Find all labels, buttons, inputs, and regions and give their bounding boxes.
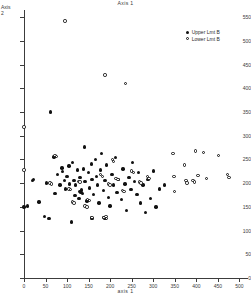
data-point: [72, 179, 75, 182]
data-point: [90, 216, 93, 219]
data-point: [67, 164, 70, 167]
data-point: [97, 201, 100, 204]
data-point: [137, 171, 140, 174]
data-point: [124, 82, 127, 85]
data-point: [144, 211, 147, 214]
data-point: [71, 161, 74, 164]
data-point: [120, 198, 123, 201]
data-point: [217, 154, 220, 157]
data-point: [53, 192, 56, 195]
data-point: [154, 205, 157, 208]
data-point: [37, 200, 40, 203]
y-tick-label: 50: [229, 251, 251, 257]
data-point: [202, 151, 205, 154]
x-tick: [24, 278, 25, 282]
y-tick: [20, 112, 24, 113]
data-point: [125, 209, 128, 212]
data-point: [102, 189, 105, 192]
data-point: [43, 215, 46, 218]
data-point: [47, 217, 50, 220]
data-point: [92, 193, 95, 196]
data-point: [205, 177, 208, 180]
data-point: [49, 110, 52, 113]
legend: Upper Lmt B Lower Lmt B: [186, 29, 220, 42]
x-tick-label: 0: [12, 283, 36, 289]
data-point: [70, 220, 73, 223]
data-point: [77, 197, 80, 200]
y-tick: [20, 17, 24, 18]
open-circle-icon: [186, 37, 189, 40]
data-point: [58, 183, 61, 186]
data-point: [83, 180, 86, 183]
data-point: [50, 182, 53, 185]
data-point: [185, 181, 188, 184]
data-point: [147, 177, 150, 180]
x-tick: [110, 278, 111, 282]
data-point: [131, 161, 134, 164]
data-point: [132, 171, 135, 174]
y-tick-label: 100: [229, 228, 251, 234]
x-tick-label: 200: [98, 283, 122, 289]
data-point: [22, 168, 25, 171]
y-axis-line: [24, 10, 25, 278]
y-tick: [20, 231, 24, 232]
data-point: [65, 175, 68, 178]
y-tick-label: 500: [229, 38, 251, 44]
x-tick-label: 50: [34, 283, 58, 289]
y-tick-label: 150: [229, 204, 251, 210]
y-tick-label: 550: [229, 14, 251, 20]
data-point: [63, 179, 66, 182]
data-point: [158, 187, 161, 190]
data-point: [74, 183, 77, 186]
data-point: [55, 155, 58, 158]
data-point: [56, 173, 59, 176]
x-tick-label: 250: [120, 283, 144, 289]
y-tick: [20, 159, 24, 160]
data-point: [103, 179, 106, 182]
x-tick-label: 350: [163, 283, 187, 289]
x-tick: [153, 278, 154, 282]
data-point: [108, 183, 111, 186]
data-point: [32, 178, 35, 181]
x-axis-line: [24, 278, 248, 279]
data-point: [94, 158, 97, 161]
y-tick-label: 350: [229, 109, 251, 115]
data-point: [105, 217, 108, 220]
data-point: [121, 167, 124, 170]
data-point: [85, 205, 88, 208]
data-point: [103, 73, 106, 76]
x-tick-label: 100: [55, 283, 79, 289]
data-point: [78, 176, 81, 179]
data-point: [129, 188, 132, 191]
data-point: [171, 152, 174, 155]
data-point: [105, 163, 108, 166]
scatter-plot: Axis 1 Axis 2 axis 1 0501001502002503003…: [0, 0, 251, 303]
x-tick: [89, 278, 90, 282]
data-point: [100, 152, 103, 155]
x-tick: [46, 278, 47, 282]
data-point: [152, 169, 155, 172]
data-point: [99, 168, 102, 171]
data-point: [163, 183, 166, 186]
data-point: [90, 178, 93, 181]
data-point: [73, 194, 76, 197]
data-point: [149, 197, 152, 200]
legend-item-lower: Lower Lmt B: [186, 36, 220, 43]
data-point: [193, 180, 196, 183]
y-tick: [20, 41, 24, 42]
y-tick: [20, 183, 24, 184]
x-tick-label: 150: [77, 283, 101, 289]
x-tick: [218, 278, 219, 282]
y-tick-label: 300: [229, 133, 251, 139]
data-point: [127, 176, 130, 179]
data-point: [116, 178, 119, 181]
data-point: [115, 191, 118, 194]
data-point: [96, 183, 99, 186]
data-point: [123, 182, 126, 185]
data-point: [122, 190, 125, 193]
data-point: [173, 190, 176, 193]
data-point: [101, 175, 104, 178]
data-point: [82, 167, 85, 170]
data-point: [227, 176, 230, 179]
data-point: [88, 186, 91, 189]
